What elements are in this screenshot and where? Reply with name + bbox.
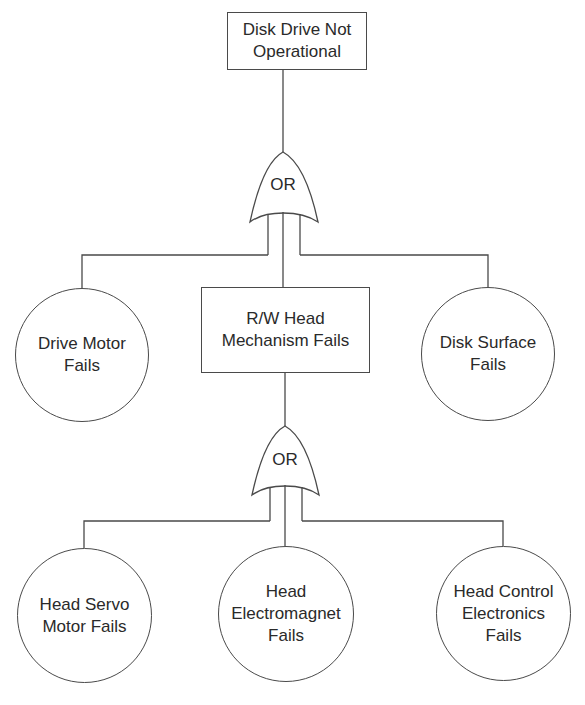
basic-event-label: Head Servo Motor Fails xyxy=(40,594,130,638)
basic-event-head-control-electronics: Head Control Electronics Fails xyxy=(436,546,571,681)
basic-event-head-electromagnet: Head Electromagnet Fails xyxy=(218,546,354,682)
or-gate-1-label: OR xyxy=(253,175,313,195)
top-event-box: Disk Drive Not Operational xyxy=(227,12,367,70)
basic-event-drive-motor: Drive Motor Fails xyxy=(15,288,149,422)
intermediate-event-box: R/W Head Mechanism Fails xyxy=(201,287,370,373)
basic-event-label: Head Control Electronics Fails xyxy=(453,581,553,647)
basic-event-head-servo-motor: Head Servo Motor Fails xyxy=(17,548,152,683)
basic-event-label: Disk Surface Fails xyxy=(440,332,536,376)
basic-event-label: Head Electromagnet Fails xyxy=(231,581,341,647)
or-gate-2-label: OR xyxy=(255,450,315,470)
basic-event-label: Drive Motor Fails xyxy=(38,333,126,377)
intermediate-event-label: R/W Head Mechanism Fails xyxy=(222,308,350,352)
top-event-label: Disk Drive Not Operational xyxy=(243,19,352,63)
basic-event-disk-surface: Disk Surface Fails xyxy=(421,287,555,421)
